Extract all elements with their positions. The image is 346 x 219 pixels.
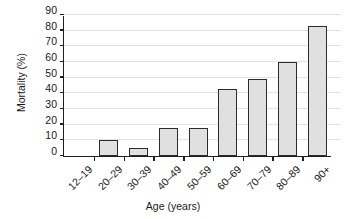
y-tick-label: 40: [45, 82, 57, 94]
x-tick-mark: [124, 156, 125, 161]
y-tick-label: 10: [45, 129, 57, 141]
gridline: [64, 14, 341, 15]
y-tick-mark: [60, 92, 64, 93]
bar: [189, 128, 208, 156]
y-tick-label: 50: [45, 67, 57, 79]
x-axis-title: Age (years): [0, 200, 346, 212]
bar: [99, 140, 118, 156]
gridline: [64, 61, 341, 62]
gridline: [64, 92, 341, 93]
y-tick-mark: [60, 139, 64, 140]
mortality-by-age-bar-chart: Mortality (%) 0102030405060708090 12–192…: [0, 0, 346, 219]
x-tick-mark: [94, 156, 95, 161]
bar: [129, 148, 148, 156]
y-tick-label: 60: [45, 51, 57, 63]
y-tick-mark: [60, 61, 64, 62]
x-tick-mark: [302, 156, 303, 161]
y-tick-mark: [60, 108, 64, 109]
gridline: [64, 108, 341, 109]
y-tick-mark: [60, 76, 64, 77]
y-tick-label: 30: [45, 98, 57, 110]
gridline: [64, 30, 341, 31]
y-tick-label: 70: [45, 35, 57, 47]
bar: [278, 62, 297, 156]
gridline: [64, 45, 341, 46]
gridline: [64, 124, 341, 125]
bar: [308, 26, 327, 156]
x-tick-mark: [153, 156, 154, 161]
y-tick-label: 80: [45, 20, 57, 32]
x-tick-mark: [183, 156, 184, 161]
x-tick-mark: [272, 156, 273, 161]
x-tick-mark: [243, 156, 244, 161]
y-tick-mark: [60, 14, 64, 15]
y-tick-mark: [60, 155, 64, 156]
y-tick-label: 20: [45, 114, 57, 126]
y-tick-mark: [60, 29, 64, 30]
y-axis-title: Mortality (%): [14, 5, 28, 160]
y-tick-label: 0: [51, 145, 57, 157]
plot-area: 0102030405060708090: [63, 16, 331, 157]
y-tick-mark: [60, 45, 64, 46]
y-tick-mark: [60, 123, 64, 124]
bar: [159, 128, 178, 156]
bar: [248, 79, 267, 156]
bar: [218, 89, 237, 156]
y-tick-label: 90: [45, 4, 57, 16]
gridline: [64, 77, 341, 78]
x-tick-mark: [213, 156, 214, 161]
